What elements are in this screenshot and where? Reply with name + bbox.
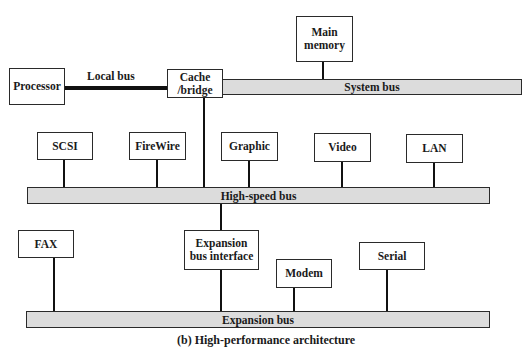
- firewire-connector: [156, 158, 158, 188]
- lan-label: LAN: [422, 142, 446, 155]
- cache-bridge-label: Cache /bridge: [177, 71, 212, 97]
- serial-box: Serial: [359, 242, 425, 270]
- system-bus: System bus: [222, 79, 522, 95]
- video-connector: [341, 160, 343, 188]
- expansion-bus-label: Expansion bus: [222, 314, 294, 326]
- high-speed-bus-label: High-speed bus: [221, 190, 297, 202]
- local-bus-label: Local bus: [87, 70, 135, 82]
- expansion-bus-interface-box: Expansion bus interface: [184, 230, 259, 270]
- firewire-box: FireWire: [129, 132, 186, 160]
- lan-box: LAN: [406, 134, 463, 163]
- main-memory-connector: [322, 60, 324, 80]
- highspeed-to-expansion-interface-connector: [220, 202, 222, 231]
- graphic-label: Graphic: [229, 140, 270, 153]
- serial-connector: [386, 268, 388, 312]
- local-bus-line: [64, 86, 168, 90]
- graphic-connector: [248, 159, 250, 188]
- processor-box: Processor: [9, 68, 65, 105]
- main-memory-label: Main memory: [304, 26, 345, 52]
- fax-connector: [53, 257, 55, 312]
- lan-connector: [433, 161, 435, 188]
- firewire-label: FireWire: [135, 140, 180, 153]
- fax-box: FAX: [18, 230, 74, 258]
- serial-label: Serial: [378, 250, 407, 263]
- high-speed-bus: High-speed bus: [27, 187, 490, 204]
- modem-connector: [293, 286, 295, 312]
- fax-label: FAX: [35, 238, 58, 251]
- video-box: Video: [314, 133, 371, 162]
- system-bus-label: System bus: [344, 81, 399, 93]
- figure-caption: (b) High-performance architecture: [177, 333, 355, 348]
- modem-label: Modem: [285, 267, 323, 280]
- graphic-box: Graphic: [221, 132, 278, 161]
- scsi-label: SCSI: [52, 140, 78, 153]
- cache-bridge-box: Cache /bridge: [167, 69, 223, 98]
- modem-box: Modem: [276, 259, 332, 288]
- processor-label: Processor: [13, 80, 61, 93]
- main-memory-box: Main memory: [296, 16, 353, 62]
- expansion-bus: Expansion bus: [26, 311, 490, 328]
- scsi-connector: [63, 158, 65, 188]
- expansion-interface-to-expansion-bus-connector: [220, 268, 222, 312]
- scsi-box: SCSI: [37, 132, 93, 160]
- expansion-bus-interface-label: Expansion bus interface: [190, 237, 254, 263]
- video-label: Video: [328, 141, 356, 154]
- cache-to-highspeed-connector: [203, 97, 205, 188]
